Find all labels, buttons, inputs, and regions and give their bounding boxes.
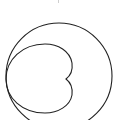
cardioid-curve <box>6 44 72 113</box>
outer-circle <box>6 23 112 120</box>
diagram-canvas <box>0 0 117 120</box>
